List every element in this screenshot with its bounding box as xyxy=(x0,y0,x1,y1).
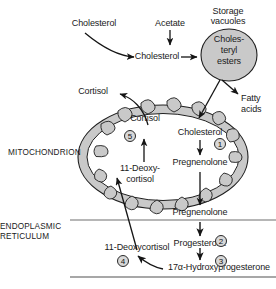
label-cholesterol-pool: Cholesterol xyxy=(135,51,179,62)
label-mito-cortisol: Cortisol xyxy=(130,113,160,124)
arrow-hydroxyprogesterone-to-deoxycortisol xyxy=(138,256,163,269)
label-cholesteryl-esters-line3: esters xyxy=(217,56,241,67)
label-er-pregnenolone: Pregnenolone xyxy=(173,207,228,218)
label-mito-deoxycortisol-line1: 11-Deoxy- xyxy=(120,163,160,174)
label-storage-vacuoles-line1: Storage xyxy=(213,6,244,17)
enzyme-step-3: 3 xyxy=(215,255,227,267)
label-er-deoxycortisol: 11-Deoxycortisol xyxy=(105,242,170,253)
mitochondrion-shape xyxy=(78,98,248,214)
label-mito-pregnenolone: Pregnenolone xyxy=(173,157,228,168)
steroidogenesis-diagram: Cholesterol Acetate Storage vacuoles Cho… xyxy=(0,0,276,289)
label-mitochondrion: MITOCHONDRION xyxy=(8,148,81,158)
label-cholesteryl-esters-line2: teryl xyxy=(221,45,238,56)
arrow-cholesterol-uptake xyxy=(85,33,134,57)
label-fatty-acids-line2: acids xyxy=(241,104,262,115)
label-endoplasmic-reticulum-line1: ENDOPLASMIC xyxy=(0,222,66,232)
label-cholesterol-external: Cholesterol xyxy=(72,18,116,29)
enzyme-step-2: 2 xyxy=(215,235,227,247)
label-endoplasmic-reticulum-line2: RETICULUM xyxy=(0,232,66,242)
label-mito-cholesterol: Cholesterol xyxy=(178,127,222,138)
enzyme-step-5: 5 xyxy=(124,130,136,142)
label-storage-vacuoles-line2: vacuoles xyxy=(211,16,246,27)
label-mito-deoxycortisol-line2: cortisol xyxy=(126,174,154,185)
label-fatty-acids-line1: Fatty xyxy=(241,93,261,104)
label-cortisol-output: Cortisol xyxy=(78,86,108,97)
enzyme-step-4: 4 xyxy=(117,255,129,267)
label-acetate: Acetate xyxy=(155,18,185,29)
enzyme-step-1: 1 xyxy=(214,138,226,150)
label-cholesteryl-esters-line1: Choles- xyxy=(214,34,244,45)
arrow-esters-to-fatty-acids xyxy=(222,80,238,94)
